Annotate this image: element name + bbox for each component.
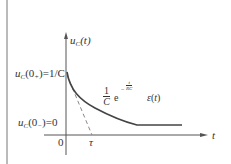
origin-label: 0 bbox=[58, 137, 64, 148]
x-axis-label: t bbox=[212, 130, 215, 141]
y-axis-label: uC(t) bbox=[70, 35, 91, 48]
x-axis-arrow-icon bbox=[200, 133, 208, 137]
initial-value-minus-label: uC(0−)=0 bbox=[18, 117, 57, 130]
formula-exponent-fraction: t RC bbox=[126, 80, 132, 91]
initial-value-plus-label: uC(0+)=1/C bbox=[15, 68, 65, 81]
y-axis-arrow-icon bbox=[64, 32, 68, 39]
diagram-canvas bbox=[0, 0, 231, 164]
formula-fraction: 1 C bbox=[103, 86, 110, 107]
formula-base: e bbox=[114, 93, 118, 103]
tau-label: τ bbox=[89, 137, 93, 148]
formula-exponent: − bbox=[121, 86, 124, 92]
formula-step-function: ε(t) bbox=[147, 93, 160, 103]
